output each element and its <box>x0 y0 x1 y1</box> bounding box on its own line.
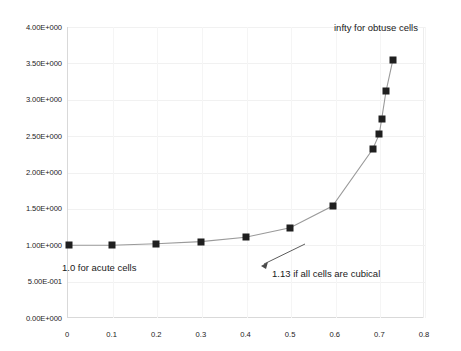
x-axis-tick-label: 0.2 <box>151 330 162 339</box>
y-axis-tick-label: 5.00E-001 <box>28 277 62 286</box>
data-point-marker <box>369 146 376 153</box>
data-point-marker <box>108 242 115 249</box>
y-axis-tick-label: 1.50E+000 <box>26 204 62 213</box>
data-point-marker <box>197 238 204 245</box>
y-axis-tick-label: 3.50E+000 <box>26 59 62 68</box>
x-axis-tick-label: 0.5 <box>285 330 296 339</box>
x-axis-tick-label: 0.8 <box>419 330 430 339</box>
data-point-marker <box>287 224 294 231</box>
y-axis-tick-label: 0.00E+000 <box>26 314 62 323</box>
x-axis-tick-label: 0.3 <box>196 330 207 339</box>
y-axis-tick-labels: 0.00E+0005.00E-0011.00E+0001.50E+0002.00… <box>0 0 62 351</box>
data-point-marker <box>153 240 160 247</box>
x-axis-tick-labels: 00.10.20.30.40.50.60.70.8 <box>0 330 461 344</box>
gridline-vertical <box>247 27 248 318</box>
y-axis-tick-label: 2.00E+000 <box>26 168 62 177</box>
annotation-one-for-acute-cells: 1.0 for acute cells <box>62 262 136 274</box>
x-axis-tick-label: 0 <box>65 330 69 339</box>
annotation-infty-for-obtuse-cells: infty for obtuse cells <box>334 22 418 34</box>
x-axis-tick-label: 0.7 <box>374 330 385 339</box>
y-axis-tick-label: 3.00E+000 <box>26 95 62 104</box>
data-point-marker <box>66 242 73 249</box>
data-point-marker <box>242 234 249 241</box>
gridline-vertical <box>425 27 426 318</box>
data-point-marker <box>378 116 385 123</box>
gridline-vertical <box>202 27 203 318</box>
gridline-vertical <box>113 27 114 318</box>
x-axis-tick-label: 0.1 <box>106 330 117 339</box>
data-point-marker <box>389 57 396 64</box>
annotation-cubical-cells: 1.13 if all cells are cubical <box>272 268 380 280</box>
chart-container: 0.00E+0005.00E-0011.00E+0001.50E+0002.00… <box>0 0 461 351</box>
y-axis-tick-label: 1.00E+000 <box>26 241 62 250</box>
y-axis-tick-label: 4.00E+000 <box>26 23 62 32</box>
gridline-vertical <box>380 27 381 318</box>
x-axis-tick-label: 0.6 <box>329 330 340 339</box>
data-point-marker <box>383 88 390 95</box>
y-axis-tick-label: 2.50E+000 <box>26 132 62 141</box>
data-point-marker <box>376 130 383 137</box>
data-point-marker <box>329 202 336 209</box>
gridline-vertical <box>157 27 158 318</box>
x-axis-tick-label: 0.4 <box>240 330 251 339</box>
